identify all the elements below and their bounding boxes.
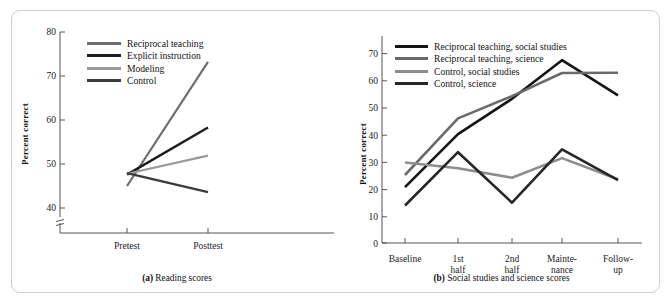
series-line-modeling-a [127,156,208,174]
chart-panel-social-studies-science-scores: Percent correct 70 60 50 40 30 20 10 0 B… [342,11,661,294]
legend-item-reciprocal-teaching: Reciprocal teaching [87,37,203,50]
chart-panel-reading-scores: Percent correct 80 70 60 50 40 Pretest P… [12,11,342,294]
panel-caption-a: (a) Reading scores [12,273,342,283]
figure-frame: Percent correct 80 70 60 50 40 Pretest P… [11,10,660,293]
panel-caption-text-b: Social studies and science scores [447,273,569,283]
legend-label-control-science: Control, science [434,78,496,89]
legend-item-control: Control [87,75,203,88]
series-line-control-a [127,173,208,192]
legend-swatch-icon-reciprocal-social-studies [395,45,428,48]
legend-item-explicit-instruction: Explicit instruction [87,50,203,63]
legend-item-control-social-studies: Control, social studies [395,65,567,78]
panel-caption-b: (b) Social studies and science scores [342,273,661,283]
legend-label-reciprocal-teaching: Reciprocal teaching [127,38,203,49]
legend-label-control-social-studies: Control, social studies [434,66,520,77]
legend-label-reciprocal-science: Reciprocal teaching, science [434,53,543,64]
legend-swatch-icon-explicit-instruction [87,54,121,57]
legend-swatch-icon-reciprocal-teaching [87,42,121,45]
legend-item-modeling: Modeling [87,62,203,75]
legend-label-control: Control [127,75,156,86]
legend-item-reciprocal-science: Reciprocal teaching, science [395,53,567,66]
legend-swatch-icon-control-social-studies [395,70,428,73]
panel-caption-prefix-b: (b) [433,273,444,283]
legend-item-reciprocal-social-studies: Reciprocal teaching, social studies [395,40,567,53]
legend-swatch-icon-control-science [395,82,428,85]
legend-label-reciprocal-social-studies: Reciprocal teaching, social studies [434,41,567,52]
panel-caption-prefix-a: (a) [142,273,153,283]
legend-item-control-science: Control, science [395,78,567,91]
series-line-explicit-instruction-a [127,128,208,175]
legend-swatch-icon-reciprocal-science [395,57,428,60]
axis-break-slash-1-a [56,220,64,222]
legend-swatch-icon-modeling [87,67,121,70]
panel-caption-text-a: Reading scores [155,273,212,283]
legend-b: Reciprocal teaching, social studies Reci… [395,40,567,90]
legend-label-modeling: Modeling [127,63,164,74]
legend-label-explicit-instruction: Explicit instruction [127,50,201,61]
legend-swatch-icon-control [87,79,121,82]
legend-a: Reciprocal teaching Explicit instruction… [87,37,203,87]
